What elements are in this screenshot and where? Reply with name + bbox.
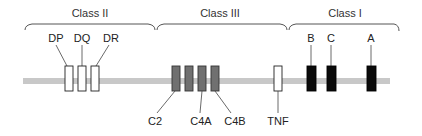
gene-c4a-label: C4A (190, 115, 212, 127)
gene-c4-extra-box (185, 66, 193, 91)
bracket-class-i: Class I (289, 7, 399, 31)
mhc-gene-diagram: Class II Class III Class I DP DQ DR C2 C… (0, 0, 422, 136)
bracket-class-ii: Class II (25, 7, 155, 30)
gene-dr-label: DR (103, 32, 119, 44)
gene-a-box (367, 66, 376, 91)
gene-dp-box (65, 66, 73, 91)
gene-c: C (327, 32, 336, 91)
class-iii-label: Class III (200, 7, 240, 19)
class-i-label: Class I (328, 7, 362, 19)
gene-c4b-box (211, 66, 219, 91)
gene-c-label: C (327, 32, 335, 44)
gene-tnf: TNF (267, 66, 289, 127)
gene-c2-box (172, 66, 180, 91)
gene-dq-box (78, 66, 86, 91)
gene-dq-label: DQ (74, 32, 91, 44)
gene-c4a-box (198, 66, 206, 91)
class-ii-label: Class II (72, 7, 109, 19)
gene-tnf-box (274, 66, 282, 91)
gene-b-label: B (307, 32, 314, 44)
gene-dp-label: DP (48, 32, 63, 44)
gene-c-box (327, 66, 336, 91)
gene-b: B (307, 32, 316, 91)
gene-tnf-label: TNF (267, 115, 289, 127)
gene-a: A (367, 32, 376, 91)
gene-c4-extra (185, 66, 193, 91)
gene-a-label: A (367, 32, 375, 44)
bracket-class-iii: Class III (157, 7, 287, 30)
gene-dr-box (91, 66, 99, 91)
gene-c2: C2 (148, 66, 180, 127)
gene-b-box (307, 66, 316, 91)
gene-c2-label: C2 (148, 115, 162, 127)
gene-c4b-label: C4B (224, 115, 245, 127)
gene-c4b: C4B (211, 66, 246, 127)
gene-c4a: C4A (190, 66, 212, 127)
